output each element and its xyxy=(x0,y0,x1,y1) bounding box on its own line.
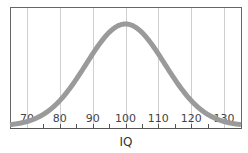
tick-label-90: 90 xyxy=(86,112,100,125)
x-axis-label: IQ xyxy=(120,135,133,149)
tick-label-80: 80 xyxy=(53,112,67,125)
tick-label-120: 120 xyxy=(181,112,202,125)
tick-label-110: 110 xyxy=(148,112,169,125)
tick-label-100: 100 xyxy=(115,112,136,125)
iq-normal-curve-chart: 708090100110120130 IQ xyxy=(0,0,248,153)
